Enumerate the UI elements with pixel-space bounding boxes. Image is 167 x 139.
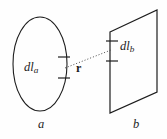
loop-a-ellipse	[13, 17, 67, 111]
label-dl-a: dla	[24, 61, 38, 75]
physics-figure: dla dlb r a b	[0, 0, 167, 139]
label-loop-b: b	[133, 118, 139, 131]
label-dl-b-subscript: b	[130, 44, 135, 54]
element-a-ticks	[58, 57, 70, 78]
label-dl-a-subscript: a	[34, 65, 39, 75]
label-loop-a: a	[38, 118, 44, 131]
element-b-ticks	[106, 41, 118, 61]
label-dl-b-main: dl	[120, 39, 130, 53]
label-dl-a-main: dl	[24, 60, 34, 74]
label-dl-b: dlb	[120, 40, 134, 54]
label-separation-vector: r	[76, 62, 81, 74]
separation-vector-line	[65, 50, 111, 68]
